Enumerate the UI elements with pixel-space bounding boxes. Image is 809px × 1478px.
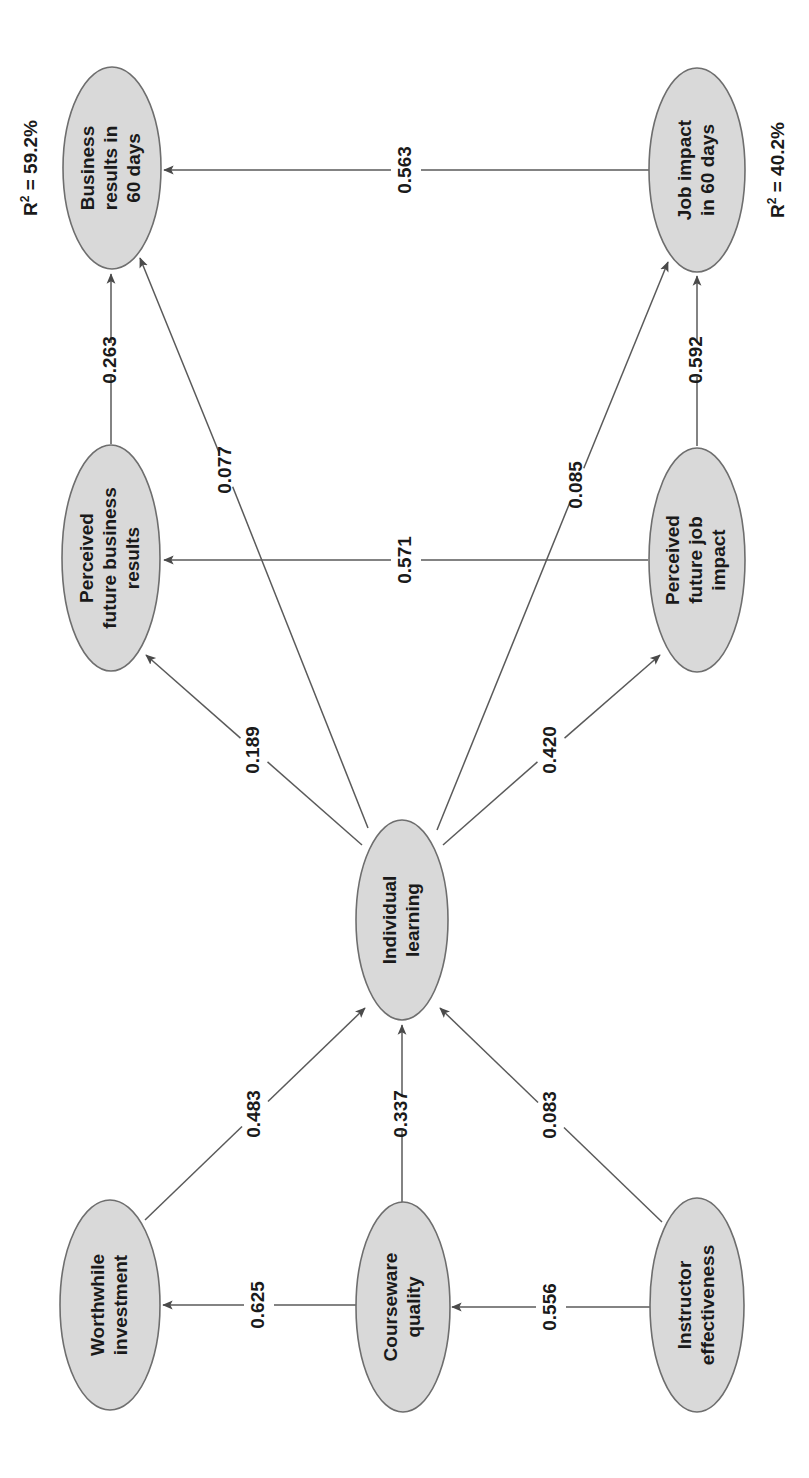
node-business_results_60[interactable]: Businessresults in60 days bbox=[63, 67, 161, 269]
edge-segment bbox=[437, 502, 570, 830]
edge-coefficient-label: 0.083 bbox=[539, 1091, 560, 1139]
node-label-line: results bbox=[122, 527, 143, 589]
edge-segment-with-arrow bbox=[146, 655, 240, 738]
edge-segment-with-arrow bbox=[565, 655, 660, 738]
edge-segment-with-arrow bbox=[140, 258, 219, 453]
node-label-line: quality bbox=[403, 1276, 424, 1338]
node-label-line: future business bbox=[99, 487, 120, 628]
edge-segment bbox=[145, 1126, 242, 1220]
node-label-line: learning bbox=[402, 883, 423, 957]
edge-coefficient-label: 0.571 bbox=[394, 536, 415, 584]
path-diagram-canvas: Businessresults in60 daysJob impactin 60… bbox=[0, 0, 809, 1478]
node-perceived_future_business_results[interactable]: Perceivedfuture businessresults bbox=[62, 445, 160, 671]
node-label-line: Instructor bbox=[674, 1260, 695, 1349]
node-label-line: in 60 days bbox=[697, 124, 718, 216]
edge-segment bbox=[443, 762, 537, 845]
node-label-line: impact bbox=[708, 529, 729, 591]
node-label-line: Perceived bbox=[662, 515, 683, 605]
edge-segment bbox=[233, 487, 368, 828]
node-individual_learning[interactable]: Individuallearning bbox=[356, 820, 448, 1020]
edge-coefficient-label: 0.085 bbox=[565, 461, 586, 509]
node-label-line: investment bbox=[110, 1254, 131, 1355]
node-label-line: Business bbox=[77, 126, 98, 210]
node-courseware_quality[interactable]: Coursewarequality bbox=[356, 1202, 450, 1412]
edge-coefficient-label: 0.563 bbox=[394, 146, 415, 194]
node-label-line: results in bbox=[100, 126, 121, 210]
edge-coefficient-label: 0.420 bbox=[539, 726, 560, 774]
sem-path-diagram: Businessresults in60 daysJob impactin 60… bbox=[0, 0, 809, 1478]
edge-coefficient-label: 0.556 bbox=[539, 1283, 560, 1331]
edge-coefficient-label: 0.592 bbox=[685, 336, 706, 384]
node-instructor_effectiveness[interactable]: Instructoreffectiveness bbox=[650, 1198, 744, 1412]
node-label-line: Courseware bbox=[380, 1253, 401, 1362]
node-label-line: effectiveness bbox=[697, 1245, 718, 1365]
node-worthwhile_investment[interactable]: Worthwhileinvestment bbox=[60, 1200, 160, 1410]
edge-coefficient-label: 0.483 bbox=[243, 1090, 264, 1138]
edge-segment-with-arrow bbox=[440, 1008, 538, 1103]
r-squared-label-job_impact_60: R2 = 40.2% bbox=[765, 122, 788, 218]
edge-coefficient-label: 0.337 bbox=[390, 1090, 411, 1138]
node-label-line: Individual bbox=[379, 876, 400, 965]
node-label-line: future job bbox=[685, 516, 706, 604]
node-label-line: Job impact bbox=[674, 119, 695, 220]
edge-coefficient-label: 0.077 bbox=[214, 446, 235, 494]
edge-segment bbox=[268, 762, 362, 845]
node-perceived_future_job_impact[interactable]: Perceivedfuture jobimpact bbox=[649, 448, 745, 672]
edge-segment-with-arrow bbox=[268, 1008, 365, 1102]
node-job_impact_60[interactable]: Job impactin 60 days bbox=[649, 68, 745, 272]
edge-segment-with-arrow bbox=[584, 262, 668, 468]
node-label-line: Worthwhile bbox=[87, 1254, 108, 1356]
edge-coefficient-label: 0.263 bbox=[99, 336, 120, 384]
node-label-line: 60 days bbox=[123, 133, 144, 203]
node-label: Businessresults in60 days bbox=[77, 126, 144, 210]
edge-coefficient-label: 0.625 bbox=[247, 1281, 268, 1329]
edge-segment bbox=[564, 1127, 662, 1222]
r-squared-label-business_results_60: R2 = 59.2% bbox=[18, 120, 41, 216]
nodes-layer: Businessresults in60 daysJob impactin 60… bbox=[60, 67, 745, 1412]
node-label-line: Perceived bbox=[76, 513, 97, 603]
edge-coefficient-label: 0.189 bbox=[242, 726, 263, 774]
